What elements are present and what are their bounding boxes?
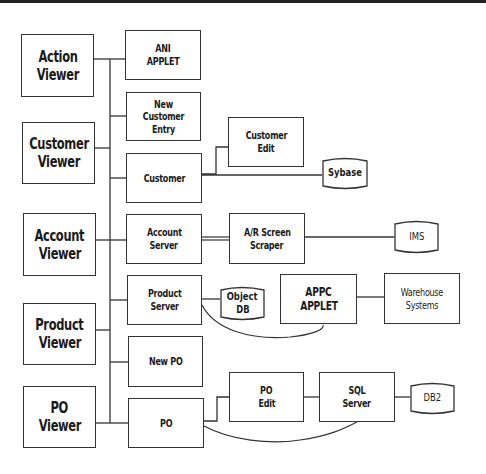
label: Server: [150, 300, 178, 313]
product-viewer-box: Product Viewer: [23, 303, 96, 365]
product-server-box: Product Server: [127, 275, 202, 325]
label: Viewer: [38, 334, 80, 352]
po-edit-box: PO Edit: [229, 372, 304, 422]
label: New PO: [149, 355, 183, 368]
warehouse-systems-box: Warehouse Systems: [384, 273, 460, 324]
ar-screen-scraper-box: A/R Screen Scraper: [229, 213, 305, 264]
label: PO: [51, 399, 68, 417]
label: Action: [38, 48, 77, 66]
label: Entry: [152, 123, 175, 136]
object-db-database: Object DB: [220, 285, 265, 322]
label: PO: [260, 384, 272, 397]
label: Warehouse: [401, 286, 443, 299]
label: Server: [150, 239, 178, 252]
label: Systems: [406, 299, 438, 312]
label: New Customer: [132, 98, 194, 123]
sql-server-box: SQL Server: [319, 372, 395, 422]
appc-applet-box: APPC APPLET: [280, 274, 357, 324]
label: Viewer: [37, 153, 79, 171]
customer-box: Customer: [126, 153, 202, 203]
label: Account: [35, 227, 85, 245]
account-server-box: Account Server: [126, 214, 202, 264]
po-viewer-box: PO Viewer: [23, 386, 96, 448]
account-viewer-box: Account Viewer: [23, 213, 96, 276]
label: Customer: [29, 135, 88, 153]
label: Product: [148, 287, 182, 300]
label: A/R Screen: [244, 226, 291, 239]
label: IMS: [409, 231, 424, 244]
label: Server: [343, 397, 371, 410]
label: Sybase: [328, 167, 362, 180]
label: Customer: [245, 129, 286, 142]
label: DB2: [424, 392, 442, 405]
customer-edit-box: Customer Edit: [228, 117, 304, 167]
ims-database: IMS: [394, 219, 439, 255]
customer-viewer-box: Customer Viewer: [22, 122, 95, 184]
label: Edit: [258, 397, 275, 410]
po-box: PO: [128, 398, 204, 448]
label: Viewer: [36, 66, 78, 84]
label: APPC: [305, 285, 331, 299]
label: SQL: [349, 384, 366, 397]
label: Viewer: [38, 417, 80, 435]
label: Scraper: [250, 239, 283, 252]
label: Account: [147, 226, 182, 239]
label: APPLET: [300, 299, 337, 313]
label: APPLET: [147, 55, 180, 68]
label: ANI: [155, 42, 170, 55]
label: Edit: [258, 142, 275, 155]
ani-applet-box: ANI APPLET: [125, 30, 201, 80]
new-customer-entry-box: New Customer Entry: [126, 92, 201, 141]
sybase-database: Sybase: [322, 156, 368, 191]
new-po-box: New PO: [128, 336, 203, 387]
label: Product: [35, 316, 83, 334]
label: Viewer: [38, 245, 80, 263]
action-viewer-box: Action Viewer: [21, 34, 94, 97]
label: Customer: [143, 172, 184, 185]
architecture-diagram: Action Viewer Customer Viewer Account Vi…: [0, 0, 486, 474]
label: DB: [236, 304, 249, 317]
label: PO: [160, 417, 172, 430]
db2-database: DB2: [410, 381, 455, 416]
